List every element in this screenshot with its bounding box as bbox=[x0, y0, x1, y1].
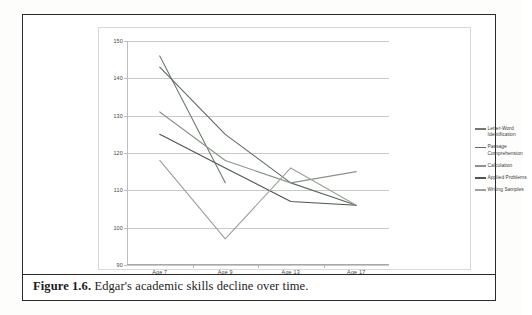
legend-label: Calculation bbox=[488, 163, 513, 169]
caption-divider bbox=[23, 274, 495, 275]
caption-label: Figure 1.6. bbox=[33, 279, 91, 293]
y-tick-label: 130 bbox=[83, 113, 123, 119]
legend-item[interactable]: Calculation bbox=[475, 163, 532, 169]
legend-swatch-icon bbox=[475, 147, 486, 149]
legend-item[interactable]: Writing Samples bbox=[475, 187, 532, 193]
legend-item[interactable]: Applied Problems bbox=[475, 175, 532, 181]
y-tick-label: 120 bbox=[83, 150, 123, 156]
figure-box: Letter-Word IdentificationPassage Compre… bbox=[22, 14, 496, 301]
x-tick-mark bbox=[193, 265, 194, 268]
y-tick-label: 90 bbox=[83, 262, 123, 268]
plot-area: 90100110120130140150 Age 7Age 9Age 13Age… bbox=[127, 41, 389, 265]
y-tick-label: 110 bbox=[83, 187, 123, 193]
legend-label: Writing Samples bbox=[488, 187, 524, 193]
series-lines bbox=[127, 41, 389, 265]
legend-swatch-icon bbox=[475, 177, 486, 179]
chart-legend: Letter-Word IdentificationPassage Compre… bbox=[475, 126, 532, 199]
y-tick-label: 150 bbox=[83, 38, 123, 44]
figure-caption: Figure 1.6. Edgar's academic skills decl… bbox=[33, 279, 487, 294]
x-tick-mark bbox=[258, 265, 259, 268]
legend-label: Passage Comprehension bbox=[488, 144, 532, 157]
legend-item[interactable]: Passage Comprehension bbox=[475, 144, 532, 157]
legend-label: Letter-Word Identification bbox=[488, 126, 532, 139]
caption-text: Edgar's academic skills decline over tim… bbox=[94, 279, 308, 293]
x-tick-mark bbox=[324, 265, 325, 268]
legend-swatch-icon bbox=[475, 128, 486, 130]
legend-label: Applied Problems bbox=[488, 175, 527, 181]
legend-item[interactable]: Letter-Word Identification bbox=[475, 126, 532, 139]
y-tick-label: 140 bbox=[83, 75, 123, 81]
legend-swatch-icon bbox=[475, 165, 486, 167]
legend-swatch-icon bbox=[475, 189, 486, 191]
y-tick-mark bbox=[124, 265, 127, 266]
series-line bbox=[160, 112, 357, 183]
y-tick-label: 100 bbox=[83, 225, 123, 231]
